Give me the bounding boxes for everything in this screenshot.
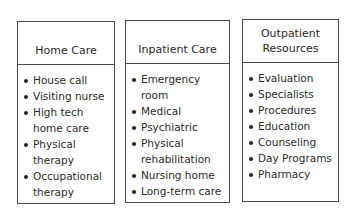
list-item: House call bbox=[24, 72, 112, 88]
list-item: Education bbox=[249, 118, 336, 134]
list-item-text: House call bbox=[33, 74, 87, 86]
list-item: High tech home care bbox=[24, 104, 112, 136]
list-item-text: Long-term care bbox=[141, 185, 221, 197]
home-care-title: Home Care bbox=[18, 22, 114, 65]
list-item: Procedures bbox=[249, 102, 336, 118]
list-item: Specialists bbox=[249, 86, 336, 102]
list-item: Physical rehabilitation bbox=[132, 135, 227, 167]
list-item-text: Specialists bbox=[258, 88, 314, 100]
list-item-text: Procedures bbox=[258, 104, 316, 116]
list-item-text: Pharmacy bbox=[258, 168, 310, 180]
inpatient-care-box: Inpatient Care Emergency roomMedicalPsyc… bbox=[125, 20, 230, 203]
list-item: Physical therapy bbox=[24, 136, 112, 168]
outpatient-resources-list: EvaluationSpecialistsProceduresEducation… bbox=[249, 70, 336, 182]
bullet-icon bbox=[249, 125, 253, 129]
bullet-icon bbox=[24, 79, 28, 83]
bullet-icon bbox=[249, 77, 253, 81]
bullet-icon bbox=[24, 175, 28, 179]
bullet-icon bbox=[132, 110, 136, 114]
list-item: Psychiatric bbox=[132, 119, 227, 135]
list-item: Medical bbox=[132, 103, 227, 119]
list-item-text: Physical rehabilitation bbox=[141, 137, 211, 165]
list-item-text: Occupational therapy bbox=[33, 170, 102, 198]
list-item: Visiting nurse bbox=[24, 88, 112, 104]
list-item-text: Education bbox=[258, 120, 310, 132]
outpatient-resources-box: Outpatient Resources EvaluationSpecialis… bbox=[242, 19, 339, 202]
list-item-text: Visiting nurse bbox=[33, 90, 105, 102]
list-item-text: Counseling bbox=[258, 136, 316, 148]
bullet-icon bbox=[132, 190, 136, 194]
bullet-icon bbox=[249, 141, 253, 145]
list-item: Day Programs bbox=[249, 150, 336, 166]
bullet-icon bbox=[132, 78, 136, 82]
list-item: Long-term care bbox=[132, 183, 227, 199]
list-item-text: High tech home care bbox=[33, 106, 89, 134]
list-item-text: Emergency room bbox=[141, 73, 200, 101]
bullet-icon bbox=[24, 95, 28, 99]
inpatient-care-title: Inpatient Care bbox=[126, 21, 229, 64]
list-item-text: Day Programs bbox=[258, 152, 332, 164]
bullet-icon bbox=[249, 109, 253, 113]
list-item-text: Evaluation bbox=[258, 72, 313, 84]
bullet-icon bbox=[249, 93, 253, 97]
bullet-icon bbox=[249, 173, 253, 177]
list-item: Evaluation bbox=[249, 70, 336, 86]
bullet-icon bbox=[24, 143, 28, 147]
bullet-icon bbox=[132, 126, 136, 130]
inpatient-care-list: Emergency roomMedicalPsychiatricPhysical… bbox=[132, 71, 227, 199]
list-item: Emergency room bbox=[132, 71, 227, 103]
bullet-icon bbox=[24, 111, 28, 115]
list-item: Nursing home bbox=[132, 167, 227, 183]
list-item-text: Medical bbox=[141, 105, 181, 117]
home-care-list: House callVisiting nurseHigh tech home c… bbox=[24, 72, 112, 200]
home-care-box: Home Care House callVisiting nurseHigh t… bbox=[17, 21, 115, 204]
bullet-icon bbox=[249, 157, 253, 161]
list-item-text: Physical therapy bbox=[33, 138, 76, 166]
list-item: Occupational therapy bbox=[24, 168, 112, 200]
outpatient-resources-title: Outpatient Resources bbox=[243, 20, 338, 63]
list-item: Pharmacy bbox=[249, 166, 336, 182]
list-item: Counseling bbox=[249, 134, 336, 150]
list-item-text: Nursing home bbox=[141, 169, 215, 181]
bullet-icon bbox=[132, 174, 136, 178]
list-item-text: Psychiatric bbox=[141, 121, 198, 133]
bullet-icon bbox=[132, 142, 136, 146]
